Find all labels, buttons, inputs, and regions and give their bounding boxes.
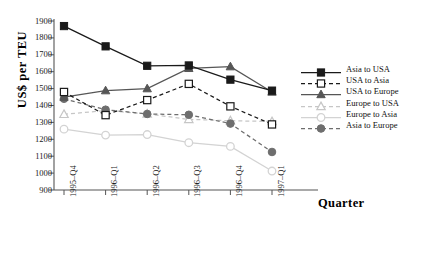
chart-figure: 1900180017001600150014001300120011001000… [0, 0, 431, 256]
data-point-asia-to-usa [102, 43, 109, 50]
legend-label: Asia to Europe [346, 120, 398, 131]
data-point-asia-to-europe [143, 110, 151, 118]
x-axis-tick-label: 1997–Q1 [276, 165, 286, 197]
data-point-asia-to-europe [268, 148, 276, 156]
x-axis-title: Quarter [318, 196, 365, 211]
data-point-usa-to-europe [143, 84, 151, 92]
data-point-usa-to-europe [226, 62, 234, 70]
x-axis-tick-label: 1996–Q1 [109, 165, 119, 197]
legend-marker [317, 125, 325, 133]
series-line-asia-to-europe [64, 99, 272, 152]
y-axis-tick-label: 1200 [10, 134, 52, 144]
data-point-asia-to-usa [144, 62, 151, 69]
legend-item-usa-to-europe[interactable]: USA to Europe [300, 86, 431, 97]
legend-marker-icon [300, 64, 342, 75]
legend-label: USA to Europe [346, 86, 399, 97]
data-point-usa-to-asia [227, 103, 234, 110]
data-point-usa-to-asia [60, 88, 67, 95]
data-point-usa-to-asia [144, 96, 151, 103]
legend-item-europe-to-asia[interactable]: Europe to Asia [300, 109, 431, 120]
y-axis-tick-label: 900 [10, 185, 52, 195]
data-point-asia-to-usa [185, 62, 192, 69]
legend-marker-icon [300, 86, 342, 97]
legend-marker-icon [300, 75, 342, 86]
x-axis-tick-label: 1995–Q4 [68, 165, 78, 197]
y-axis-title: US$ per TEU [15, 15, 30, 125]
chart-legend: Asia to USAUSA to AsiaUSA to EuropeEurop… [300, 64, 431, 131]
y-axis-tick-label: 1100 [10, 151, 52, 161]
data-point-usa-to-asia [268, 121, 275, 128]
data-point-europe-to-asia [268, 167, 276, 175]
legend-label: USA to Asia [346, 75, 389, 86]
data-point-asia-to-usa [268, 87, 275, 94]
series-line-europe-to-usa [64, 111, 272, 122]
series-line-usa-to-asia [64, 84, 272, 125]
data-point-asia-to-usa [60, 22, 67, 29]
legend-label: Europe to USA [346, 98, 399, 109]
legend-item-usa-to-asia[interactable]: USA to Asia [300, 75, 431, 86]
series-line-asia-to-usa [64, 26, 272, 91]
legend-label: Asia to USA [346, 64, 390, 75]
legend-marker-icon [300, 98, 342, 109]
legend-item-asia-to-europe[interactable]: Asia to Europe [300, 120, 431, 131]
x-axis-tick-label: 1996–Q4 [234, 165, 244, 197]
legend-item-europe-to-usa[interactable]: Europe to USA [300, 98, 431, 109]
data-point-asia-to-europe [185, 111, 193, 119]
data-point-europe-to-asia [143, 131, 151, 139]
legend-label: Europe to Asia [346, 109, 397, 120]
data-point-asia-to-usa [227, 76, 234, 83]
data-point-europe-to-asia [60, 125, 68, 133]
x-axis-tick-label: 1996–Q3 [192, 165, 202, 197]
legend-marker-icon [300, 109, 342, 120]
data-point-europe-to-asia [185, 139, 193, 147]
data-point-usa-to-asia [102, 112, 109, 119]
y-axis-tick-label: 1000 [10, 168, 52, 178]
legend-item-asia-to-usa[interactable]: Asia to USA [300, 64, 431, 75]
data-point-europe-to-asia [227, 143, 235, 151]
data-point-asia-to-europe [227, 120, 235, 128]
x-axis-tick-label: 1996–Q2 [151, 165, 161, 197]
data-point-usa-to-asia [185, 80, 192, 87]
legend-marker-icon [300, 120, 342, 131]
data-point-europe-to-asia [102, 131, 110, 139]
